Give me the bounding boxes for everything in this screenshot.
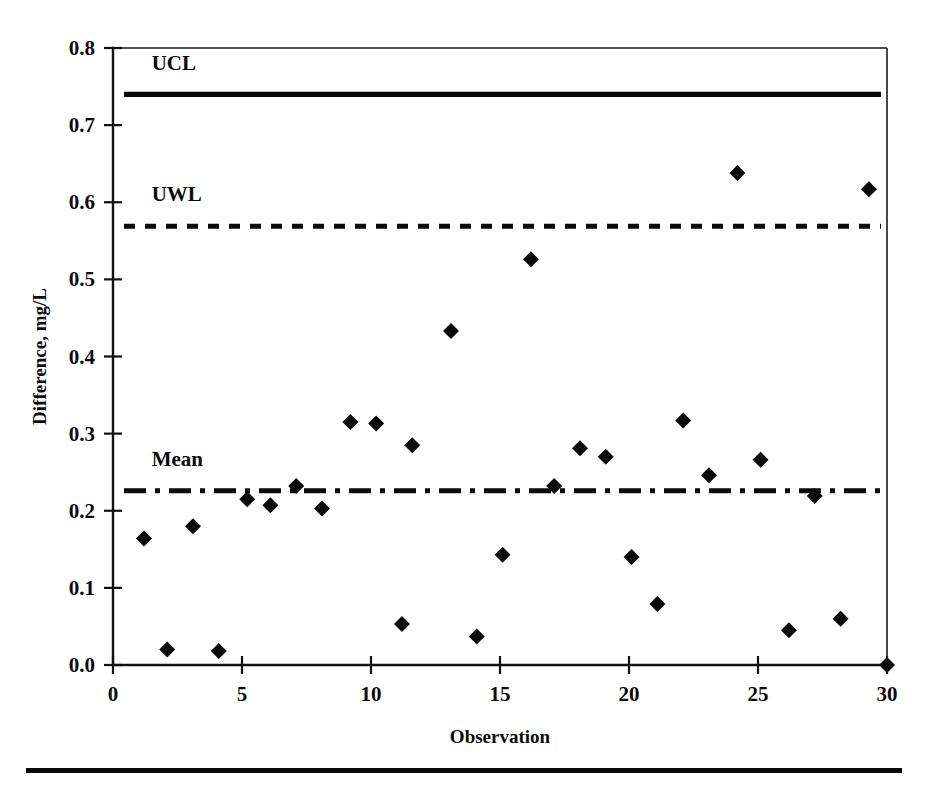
data-point xyxy=(394,616,410,632)
control-chart-figure: 0.00.10.20.30.40.50.60.70.8051015202530O… xyxy=(0,0,928,790)
data-point xyxy=(239,491,255,507)
bottom-rule-divider xyxy=(26,768,902,773)
data-point xyxy=(368,416,384,432)
x-tick-label-25: 25 xyxy=(748,682,769,706)
data-point xyxy=(675,413,691,429)
x-tick-label-15: 15 xyxy=(490,682,511,706)
data-point xyxy=(136,531,152,547)
x-tick-label-30: 30 xyxy=(877,682,898,706)
reference-label-mean: Mean xyxy=(152,447,204,471)
x-tick-label-0: 0 xyxy=(108,682,119,706)
x-tick-label-20: 20 xyxy=(619,682,640,706)
x-tick-label-5: 5 xyxy=(237,682,248,706)
data-point xyxy=(753,452,769,468)
data-point xyxy=(649,596,665,612)
data-point xyxy=(523,251,539,267)
y-tick-label-0.8: 0.8 xyxy=(69,36,95,60)
data-point xyxy=(701,467,717,483)
x-tick-label-10: 10 xyxy=(361,682,382,706)
y-tick-label-0.6: 0.6 xyxy=(69,190,95,214)
y-tick-label-0.2: 0.2 xyxy=(69,499,95,523)
reference-label-uwl: UWL xyxy=(152,182,202,206)
data-point xyxy=(469,628,485,644)
y-tick-label-0.5: 0.5 xyxy=(69,267,95,291)
data-point xyxy=(861,181,877,197)
data-point xyxy=(262,497,278,513)
data-point xyxy=(443,323,459,339)
data-point xyxy=(314,500,330,516)
x-axis-title: Observation xyxy=(450,726,551,747)
data-point-group xyxy=(136,165,895,673)
data-point xyxy=(159,642,175,658)
data-point xyxy=(624,549,640,565)
reference-label-ucl: UCL xyxy=(152,51,196,75)
control-chart-canvas: 0.00.10.20.30.40.50.60.70.8051015202530O… xyxy=(0,0,928,790)
y-axis-title: Difference, mg/L xyxy=(29,288,50,425)
data-point xyxy=(404,437,420,453)
y-tick-label-0.1: 0.1 xyxy=(69,576,95,600)
data-point xyxy=(572,440,588,456)
data-point xyxy=(211,643,227,659)
data-point xyxy=(598,449,614,465)
data-point xyxy=(495,547,511,563)
data-point xyxy=(729,165,745,181)
y-tick-label-0.7: 0.7 xyxy=(69,113,95,137)
data-point xyxy=(833,611,849,627)
y-tick-label-0.0: 0.0 xyxy=(69,653,95,677)
data-point xyxy=(185,518,201,534)
data-point xyxy=(342,414,358,430)
data-point xyxy=(781,622,797,638)
y-tick-label-0.4: 0.4 xyxy=(69,345,96,369)
data-point xyxy=(879,657,895,673)
y-tick-label-0.3: 0.3 xyxy=(69,422,95,446)
axis-spines xyxy=(113,48,887,665)
